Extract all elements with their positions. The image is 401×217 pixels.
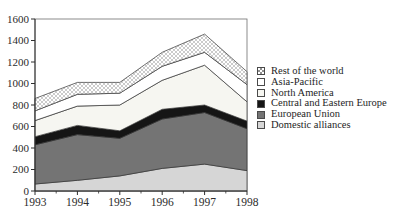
y-tick-label: 400 <box>13 142 30 154</box>
legend-swatch-asia-pacific <box>257 78 265 86</box>
y-tick-label: 200 <box>13 163 30 175</box>
y-tick-label: 1000 <box>7 77 30 89</box>
y-tick-label: 0 <box>24 185 30 197</box>
legend-swatch-north-america <box>257 89 265 97</box>
y-tick-label: 1600 <box>7 13 30 25</box>
legend-label: Domestic alliances <box>271 120 351 131</box>
stacked-area-chart-figure: 0200400600800100012001400160019931994199… <box>0 0 401 217</box>
x-tick-label: 1994 <box>66 196 89 208</box>
x-tick-label: 1998 <box>236 196 259 208</box>
x-tick-label: 1996 <box>151 196 174 208</box>
legend-swatch-european-union <box>257 111 265 119</box>
legend-item-domestic-alliances: Domestic alliances <box>257 120 387 131</box>
y-tick-label: 600 <box>13 120 30 132</box>
x-tick-label: 1997 <box>193 196 216 208</box>
legend-label: Asia-Pacific <box>271 77 323 88</box>
x-tick-label: 1993 <box>24 196 47 208</box>
legend-swatch-rest-of-the-world <box>257 67 265 75</box>
y-tick-label: 1200 <box>7 56 30 68</box>
y-tick-label: 1400 <box>7 34 30 46</box>
legend-swatch-central-and-eastern-europe <box>257 100 265 108</box>
legend-item-asia-pacific: Asia-Pacific <box>257 77 387 88</box>
legend-swatch-domestic-alliances <box>257 121 265 129</box>
chart-legend: Rest of the worldAsia-PacificNorth Ameri… <box>257 66 387 131</box>
area-bands <box>35 34 247 191</box>
x-tick-label: 1995 <box>108 196 131 208</box>
y-tick-label: 800 <box>13 99 30 111</box>
